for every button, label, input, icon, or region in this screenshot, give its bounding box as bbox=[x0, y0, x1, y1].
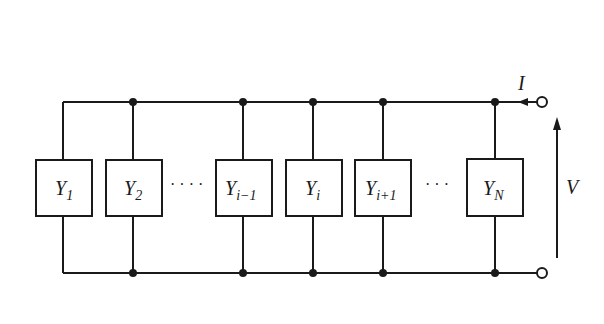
current-label: I bbox=[517, 72, 526, 94]
label-yi-plus-1: Yi+1 bbox=[365, 177, 396, 203]
ellipsis-right: · · · bbox=[425, 176, 449, 193]
label-yn: YN bbox=[483, 177, 504, 203]
label-yi: Yi bbox=[305, 177, 320, 203]
terminal-bottom bbox=[537, 268, 547, 278]
current-arrowhead-icon bbox=[518, 98, 528, 106]
label-y1: Y1 bbox=[55, 177, 73, 203]
voltage-arrowhead-icon bbox=[553, 117, 561, 130]
label-yi-minus-1: Yi−1 bbox=[225, 177, 256, 203]
ellipsis-left: · · · · bbox=[170, 176, 203, 193]
circuit-diagram: Y1 Y2 Yi−1 Yi Yi+1 YN · · · · · · · I V bbox=[0, 0, 604, 324]
terminal-top bbox=[537, 97, 547, 107]
label-y2: Y2 bbox=[124, 177, 142, 203]
voltage-label: V bbox=[566, 176, 581, 198]
